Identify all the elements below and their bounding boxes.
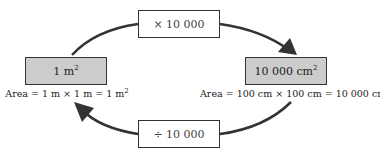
multiply-label: × 10 000	[153, 18, 204, 31]
square-centimetre-caption: Area = 100 cm × 100 cm = 10 000 cm2	[200, 87, 372, 99]
arc-top-right-arrow	[220, 24, 289, 50]
square-centimetre-box: 10 000 cm2	[245, 57, 327, 85]
arc-bottom-left-arrow	[82, 110, 138, 134]
arc-bottom-right	[220, 102, 291, 134]
arrowhead-left	[74, 102, 94, 122]
divide-operation-box: ÷ 10 000	[138, 120, 220, 148]
square-metre-box: 1 m2	[25, 57, 107, 85]
multiply-operation-box: × 10 000	[138, 10, 220, 38]
square-metre-label: 1 m2	[53, 64, 78, 78]
arrowhead-right	[278, 38, 297, 55]
square-metre-caption: Area = 1 m × 1 m = 1 m2	[0, 87, 134, 99]
divide-label: ÷ 10 000	[153, 128, 204, 141]
square-centimetre-label: 10 000 cm2	[254, 64, 317, 78]
arc-top-left	[72, 24, 138, 55]
